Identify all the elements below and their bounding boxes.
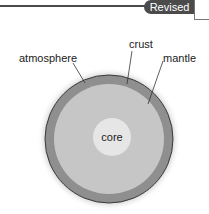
crust-label: crust <box>129 38 153 50</box>
core-label: core <box>101 131 122 143</box>
earth-structure-diagram: atmosphere crust mantle core <box>0 0 209 214</box>
mantle-label: mantle <box>163 52 196 64</box>
atmosphere-label: atmosphere <box>19 52 77 64</box>
